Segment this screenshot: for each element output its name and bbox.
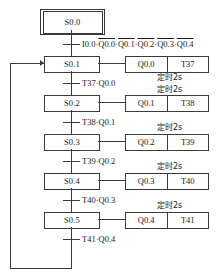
cond0-term5: Q0.4 [177, 39, 194, 49]
action-output-s02: Q0.1 [126, 96, 168, 111]
link-s05-to-t5 [71, 227, 72, 239]
timer-note-s02: 定时2s [157, 86, 182, 94]
transition-condition-2: T38·Q0.1 [82, 118, 115, 127]
step-label-s01: S0.1 [64, 60, 80, 69]
step-box-s02: S0.2 [44, 95, 100, 112]
action-link-s04 [98, 180, 125, 181]
loopback-arrow-icon [40, 60, 44, 66]
timer-note-s05: 定时2s [157, 202, 182, 210]
action-link-s01 [98, 63, 125, 64]
link-s00-to-t0 [71, 30, 72, 44]
action-box-s05: Q0.4 T41 [125, 212, 209, 229]
link-t0-to-s01 [71, 45, 72, 56]
cond0-term4: Q0.3 [157, 39, 174, 49]
initial-step-s00: S0.0 [40, 9, 105, 35]
action-box-s01: Q0.0 T37 [125, 56, 209, 73]
transition-condition-1: T37·Q0.0 [82, 79, 115, 88]
transition-condition-4: T40·Q0.3 [82, 196, 115, 205]
action-output-s01: Q0.0 [126, 57, 168, 72]
action-timer-s03: T39 [168, 135, 209, 150]
timer-note-s01: 定时2s [157, 74, 182, 82]
step-label-s05: S0.5 [64, 216, 80, 225]
action-link-s03 [98, 141, 125, 142]
transition-condition-5: T41·Q0.4 [82, 235, 115, 244]
loopback-top-segment [10, 63, 44, 64]
loopback-down-segment [71, 240, 72, 268]
action-output-s05: Q0.4 [126, 213, 168, 228]
step-box-s03: S0.3 [44, 134, 100, 151]
cond0-term0: I0.0 [82, 39, 95, 49]
timer-note-s03: 定时2s [157, 124, 182, 132]
action-box-s02: Q0.1 T38 [125, 95, 209, 112]
link-t2-to-s03 [71, 123, 72, 134]
link-s02-to-t2 [71, 110, 72, 122]
action-timer-s04: T40 [168, 174, 209, 189]
action-link-s02 [98, 102, 125, 103]
initial-step-label: S0.0 [43, 11, 103, 34]
cond0-term1: Q0.0 [98, 39, 115, 49]
link-s03-to-t3 [71, 149, 72, 161]
loopback-bottom-segment [10, 268, 72, 269]
link-s01-to-t1 [71, 71, 72, 83]
action-box-s03: Q0.2 T39 [125, 134, 209, 151]
step-box-s04: S0.4 [44, 173, 100, 190]
cond0-term2: Q0.1 [118, 39, 135, 49]
timer-note-s04: 定时2s [157, 163, 182, 171]
action-timer-s05: T41 [168, 213, 209, 228]
link-s04-to-t4 [71, 188, 72, 200]
step-label-s02: S0.2 [64, 99, 80, 108]
action-box-s04: Q0.3 T40 [125, 173, 209, 190]
transition-condition-0: I0.0·Q0.0·Q0.1·Q0.2·Q0.3·Q0.4 [82, 40, 194, 49]
link-t1-to-s02 [71, 84, 72, 95]
step-box-s05: S0.5 [44, 212, 100, 229]
loopback-left-segment [10, 63, 11, 269]
link-t4-to-s05 [71, 201, 72, 212]
action-timer-s01: T37 [168, 57, 209, 72]
cond0-term3: Q0.2 [138, 39, 155, 49]
step-label-s04: S0.4 [64, 177, 80, 186]
sfc-diagram: S0.0 I0.0·Q0.0·Q0.1·Q0.2·Q0.3·Q0.4 S0.1 … [0, 0, 219, 279]
action-output-s03: Q0.2 [126, 135, 168, 150]
transition-condition-3: T39·Q0.2 [82, 157, 115, 166]
action-timer-s02: T38 [168, 96, 209, 111]
link-t3-to-s04 [71, 162, 72, 173]
step-box-s01: S0.1 [44, 56, 100, 73]
action-output-s04: Q0.3 [126, 174, 168, 189]
step-label-s03: S0.3 [64, 138, 80, 147]
action-link-s05 [98, 219, 125, 220]
